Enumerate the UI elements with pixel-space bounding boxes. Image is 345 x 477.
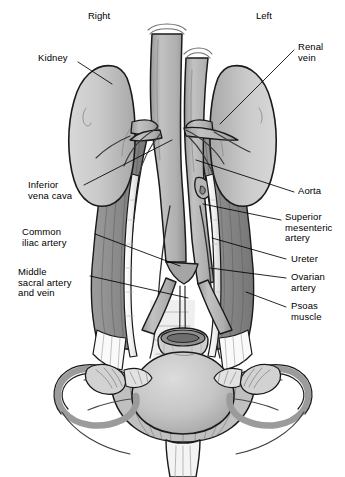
label-superior-mesenteric-artery: Superior mesenteric artery: [285, 212, 332, 244]
orientation-left: Left: [256, 10, 272, 21]
label-renal-vein: Renal vein: [298, 42, 323, 63]
label-kidney: Kidney: [38, 53, 68, 64]
label-common-iliac-artery: Common iliac artery: [22, 227, 67, 248]
label-psoas-muscle: Psoas muscle: [291, 301, 322, 322]
label-inferior-vena-cava: Inferior vena cava: [28, 180, 72, 201]
orientation-right: Right: [88, 10, 110, 21]
vagina-shape: [166, 440, 200, 477]
label-ovarian-artery: Ovarian artery: [291, 272, 325, 293]
anatomical-figure: Right Left Kidney Inferior vena cava Com…: [0, 0, 345, 477]
label-aorta: Aorta: [298, 186, 321, 197]
left-ovary-shape: [240, 364, 280, 394]
label-middle-sacral-artery-and-vein: Middle sacral artery and vein: [18, 267, 72, 299]
right-kidney-shape: [69, 66, 135, 207]
label-ureter: Ureter: [291, 254, 318, 265]
uterus-shape: [132, 352, 234, 434]
